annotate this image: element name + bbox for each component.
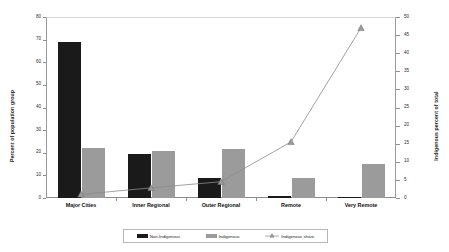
legend-label-non-indigenous: Non-Indigenous [150, 234, 180, 239]
x-tick-mark [256, 198, 257, 201]
chart-legend: Non-Indigenous Indigenous Indigenous sha… [123, 229, 328, 243]
y-tick-label-right: 5 [404, 178, 407, 183]
y-tick-label-left: 20 [36, 150, 41, 155]
legend-label-indigenous: Indigenous [219, 234, 240, 239]
x-tick-mark [186, 198, 187, 201]
y-tick-label-right: 30 [404, 87, 409, 92]
x-category-label: Major Cities [46, 202, 116, 208]
y-tick-label-left: 80 [36, 15, 41, 20]
y-tick-label-right: 10 [404, 159, 409, 164]
y-tick-mark-right [396, 71, 400, 72]
y-tick-mark-right [396, 89, 400, 90]
legend-item-indigenous-share[interactable]: Indigenous share [265, 233, 314, 239]
y-tick-label-right: 25 [404, 105, 409, 110]
x-category-label: Inner Regional [116, 202, 186, 208]
y-tick-label-right: 50 [404, 15, 409, 20]
y-tick-label-left: 30 [36, 128, 41, 133]
y-tick-mark-right [396, 17, 400, 18]
line-marker-remote [288, 139, 294, 145]
chart-container: Percent of population group Indigenous p… [0, 0, 449, 252]
y-tick-mark-right [396, 162, 400, 163]
y-tick-mark-right [396, 108, 400, 109]
y-tick-mark-right [396, 144, 400, 145]
x-category-label: Very Remote [326, 202, 396, 208]
x-category-label: Remote [256, 202, 326, 208]
legend-item-indigenous[interactable]: Indigenous [206, 234, 240, 239]
y-tick-label-right: 40 [404, 51, 409, 56]
legend-item-non-indigenous[interactable]: Non-Indigenous [137, 234, 180, 239]
line-series-layer [46, 17, 396, 198]
x-category-label: Outer Regional [186, 202, 256, 208]
legend-swatch-indigenous [206, 234, 217, 238]
y-tick-label-left: 10 [36, 173, 41, 178]
y-tick-mark-right [396, 198, 400, 199]
y-tick-mark-right [396, 126, 400, 127]
legend-marker-line-triangle-icon [265, 233, 279, 239]
x-tick-mark [116, 198, 117, 201]
x-tick-mark [326, 198, 327, 201]
line-marker-outer-regional [218, 179, 224, 185]
y-tick-mark-right [396, 180, 400, 181]
y-axis-title-left: Percent of population group [9, 90, 15, 162]
y-tick-label-left: 50 [36, 82, 41, 87]
y-tick-label-right: 45 [404, 33, 409, 38]
y-tick-label-right: 0 [404, 196, 407, 201]
legend-label-indigenous-share: Indigenous share [281, 234, 314, 239]
y-tick-label-left: 40 [36, 105, 41, 110]
y-tick-label-right: 20 [404, 123, 409, 128]
y-tick-label-left: 70 [36, 37, 41, 42]
line-marker-very-remote [358, 25, 364, 31]
y-tick-label-left: 0 [38, 196, 41, 201]
line-indigenous-share [81, 28, 361, 195]
y-tick-label-left: 60 [36, 60, 41, 65]
y-tick-label-right: 35 [404, 69, 409, 74]
y-tick-mark-left [43, 198, 46, 199]
y-axis-title-right: Indigenous percent of total [433, 91, 439, 160]
y-tick-label-right: 15 [404, 141, 409, 146]
y-tick-mark-right [396, 35, 400, 36]
y-tick-mark-right [396, 53, 400, 54]
legend-swatch-non-indigenous [137, 234, 148, 238]
